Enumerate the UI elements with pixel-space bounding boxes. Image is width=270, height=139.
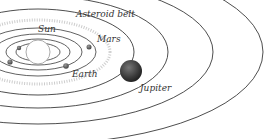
- label-mars: Mars: [96, 34, 121, 44]
- label-asteroid-belt: Asteroid belt: [75, 9, 135, 19]
- label-earth: Earth: [71, 69, 98, 79]
- planet-jupiter: [120, 60, 142, 82]
- planet-earth: [63, 63, 69, 69]
- solar-system-diagram: Sun Asteroid belt Mars Earth Jupiter: [0, 0, 270, 139]
- planet-mars: [87, 45, 92, 50]
- label-jupiter: Jupiter: [138, 83, 172, 93]
- label-sun: Sun: [38, 24, 56, 34]
- sun: [26, 40, 50, 64]
- planet-mercury: [17, 46, 21, 50]
- planet-venus: [7, 59, 12, 64]
